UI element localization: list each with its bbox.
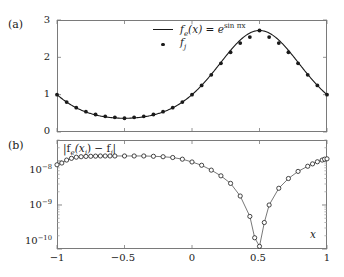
xtick-05: 0.5	[242, 252, 274, 263]
x-axis-label: x	[310, 228, 316, 240]
xtick-neg05: −0.5	[107, 252, 139, 263]
legend-line-swatch	[150, 29, 176, 30]
xtick-neg1: −1	[45, 252, 69, 263]
panel-a-ytick-2: 2	[30, 51, 50, 62]
legend-entry-curve: fe(x) = esin πx	[150, 22, 245, 37]
panel-a-ytick-3: 3	[30, 14, 50, 25]
legend-samples-label: fj	[180, 35, 186, 54]
figure-root: (a) 3 2 1 0 fe(x) = esin πx fj (b) 10−8 …	[0, 0, 344, 277]
panel-b-title: |fe(xj) − fj|	[63, 142, 116, 157]
panel-a-tag: (a)	[8, 18, 23, 31]
panel-b-ytick-9: 10−9	[16, 198, 52, 210]
legend-dot-swatch	[150, 43, 176, 46]
panel-a-legend: fe(x) = esin πx fj	[150, 22, 245, 52]
panel-b-ytick-8: 10−8	[16, 163, 52, 175]
xtick-1: 1	[315, 252, 339, 263]
panel-a-ytick-1: 1	[30, 88, 50, 99]
xtick-0: 0	[180, 252, 204, 263]
panel-b-tag: (b)	[8, 139, 24, 152]
panel-b-ytick-10: 10−10	[12, 234, 52, 246]
legend-curve-label: fe(x) = esin πx	[180, 18, 245, 41]
panel-a-ytick-0: 0	[30, 125, 50, 136]
